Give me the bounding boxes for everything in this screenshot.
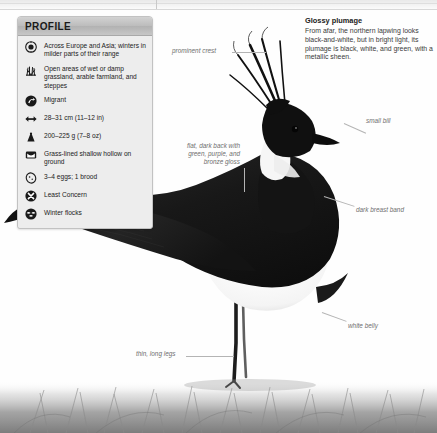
profile-header: PROFILE (18, 17, 152, 36)
profile-title: PROFILE (25, 21, 71, 32)
leader-flat-dark-back (244, 168, 245, 192)
profile-row-migration: Migrant (23, 95, 146, 108)
profile-text-range: Across Europe and Asia; winters in milde… (44, 41, 146, 59)
profile-text-weight: 200–225 g (7–8 oz) (44, 131, 101, 140)
profile-row-social: Winter flocks (23, 208, 146, 221)
size-arrows-icon (23, 113, 38, 126)
callout-flat-dark-back: flat, dark back with green, purple, and … (158, 142, 240, 167)
callout-dark-breast-band: dark breast band (356, 206, 404, 214)
small-bill-shape (312, 133, 340, 145)
conservation-status-icon (23, 190, 38, 203)
leader-thin-long-legs (186, 356, 234, 357)
page-strip-rule (0, 3, 437, 4)
grass-habitat-icon (23, 64, 38, 77)
glossy-plumage-info: Glossy plumage From afar, the northern l… (305, 16, 433, 62)
callout-prominent-crest: prominent crest (172, 47, 216, 55)
ground-shadow (184, 379, 316, 391)
profile-row-size: 28–31 cm (11–12 in) (23, 113, 146, 126)
profile-text-status: Least Concern (44, 190, 87, 199)
profile-row-nest: Grass-lined shallow hollow on ground (23, 149, 146, 167)
profile-card: PROFILE Across Europe and Asia; winters … (17, 16, 153, 229)
info-title: Glossy plumage (305, 16, 433, 25)
profile-row-weight: 200–225 g (7–8 oz) (23, 131, 146, 144)
profile-row-range: Across Europe and Asia; winters in milde… (23, 41, 146, 59)
profile-text-eggs: 3–4 eggs; 1 brood (44, 172, 97, 181)
profile-text-habitat: Open areas of wet or damp grassland, ara… (44, 64, 146, 90)
egg-icon (23, 172, 38, 185)
weight-icon (23, 131, 38, 144)
page-canvas: PROFILE Across Europe and Asia; winters … (0, 0, 437, 433)
legs (226, 297, 246, 388)
page-strip-divider (156, 0, 157, 9)
leader-prominent-crest (232, 52, 266, 53)
eye-highlight (295, 127, 297, 129)
prominent-crest-shape (230, 39, 285, 109)
range-globe-icon (23, 41, 38, 54)
profile-text-social: Winter flocks (44, 208, 82, 217)
callout-white-belly: white belly (348, 322, 378, 330)
profile-text-nest: Grass-lined shallow hollow on ground (44, 149, 146, 167)
profile-row-status: Least Concern (23, 190, 146, 203)
nest-icon (23, 149, 38, 162)
migration-arrow-icon (23, 95, 38, 108)
profile-text-size: 28–31 cm (11–12 in) (44, 113, 104, 122)
callout-thin-long-legs: thin, long legs (136, 350, 175, 358)
profile-text-migration: Migrant (44, 95, 66, 104)
info-body: From afar, the northern lapwing looks bl… (305, 27, 433, 62)
profile-row-eggs: 3–4 eggs; 1 brood (23, 172, 146, 185)
callout-small-bill: small bill (366, 117, 391, 125)
flock-icon (23, 208, 38, 221)
eye (292, 126, 298, 132)
profile-body: Across Europe and Asia; winters in milde… (18, 36, 152, 228)
profile-row-habitat: Open areas of wet or damp grassland, ara… (23, 64, 146, 90)
